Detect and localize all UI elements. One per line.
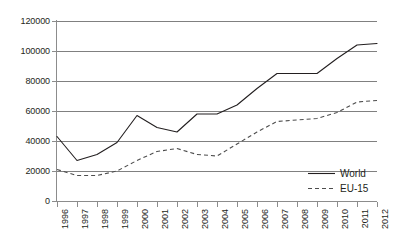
legend-swatch-solid-icon bbox=[308, 169, 335, 178]
y-tick-mark bbox=[52, 111, 57, 112]
y-tick-mark bbox=[52, 21, 57, 22]
legend-label-world: World bbox=[335, 169, 366, 179]
series-line-eu-15 bbox=[57, 101, 377, 176]
line-chart: 020000400006000080000100000120000 199619… bbox=[0, 0, 399, 250]
y-tick-mark bbox=[52, 171, 57, 172]
y-tick-mark bbox=[52, 201, 57, 202]
legend: World EU-15 bbox=[308, 166, 378, 196]
legend-item-eu-15: EU-15 bbox=[308, 181, 378, 196]
legend-item-world: World bbox=[308, 166, 378, 181]
y-tick-mark bbox=[52, 81, 57, 82]
series-line-world bbox=[57, 44, 377, 161]
series-container bbox=[0, 0, 399, 250]
legend-label-eu-15: EU-15 bbox=[335, 184, 368, 194]
y-tick-mark bbox=[52, 141, 57, 142]
legend-swatch-dashed-icon bbox=[308, 184, 335, 193]
y-tick-mark bbox=[52, 51, 57, 52]
